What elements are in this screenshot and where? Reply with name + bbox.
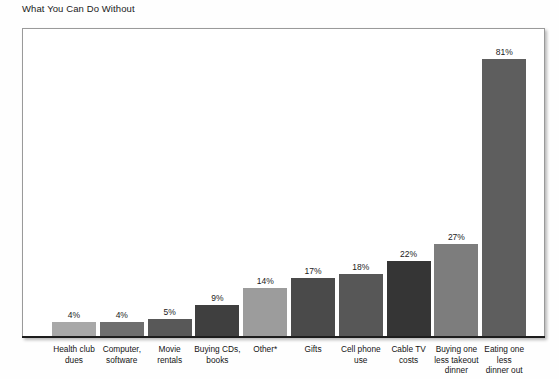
category-labels-layer: Health clubduesComputer,softwareMovieren… xyxy=(0,0,559,379)
category-label-line: less xyxy=(476,355,532,366)
category-label-line: Eating one xyxy=(476,344,532,355)
chart-page: What You Can Do Without 4%4%5%9%14%17%18… xyxy=(0,0,559,379)
category-label-line: dinner out xyxy=(476,365,532,376)
category-label-line: books xyxy=(189,355,245,366)
category-label: Eating onelessdinner out xyxy=(476,344,532,376)
